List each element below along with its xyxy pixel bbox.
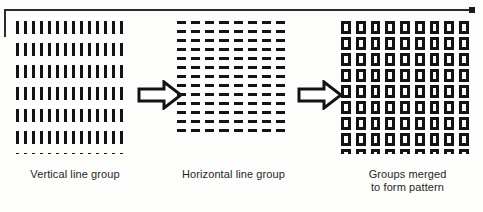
horizontal-mark (219, 93, 228, 96)
horizontal-mark (191, 129, 200, 132)
square-mark (444, 21, 454, 34)
horizontal-mark (234, 129, 243, 132)
horizontal-mark (205, 102, 214, 105)
vertical-mark (96, 131, 99, 144)
horizontal-mark (177, 21, 186, 24)
horizontal-mark (262, 111, 271, 114)
horizontal-mark (191, 120, 200, 123)
horizontal-mark (262, 48, 271, 51)
vertical-mark (72, 131, 75, 144)
horizontal-mark (219, 84, 228, 87)
vertical-mark (112, 21, 115, 34)
square-mark (356, 149, 366, 154)
mark-row (16, 65, 134, 78)
horizontal-line-group-panel (177, 21, 290, 154)
vertical-mark (72, 109, 75, 122)
horizontal-mark (234, 66, 243, 69)
square-mark (444, 69, 454, 82)
vertical-mark (120, 153, 123, 154)
horizontal-mark (276, 102, 285, 105)
mark-row (16, 87, 134, 100)
vertical-mark (48, 131, 51, 144)
vertical-mark (72, 153, 75, 154)
horizontal-mark (262, 84, 271, 87)
square-mark (444, 133, 454, 146)
square-mark (371, 133, 381, 146)
horizontal-mark (205, 66, 214, 69)
vertical-mark (72, 87, 75, 100)
horizontal-mark (262, 93, 271, 96)
horizontal-mark (234, 102, 243, 105)
horizontal-mark (219, 129, 228, 132)
horizontal-mark (234, 93, 243, 96)
vertical-mark (80, 65, 83, 78)
horizontal-mark (248, 75, 257, 78)
square-mark (459, 69, 469, 82)
vertical-mark (48, 65, 51, 78)
square-mark (430, 149, 440, 154)
mark-row (177, 39, 290, 42)
arrow-right-icon (297, 80, 343, 110)
mark-row (341, 53, 474, 66)
square-mark (430, 69, 440, 82)
square-mark (400, 101, 410, 114)
vertical-mark (104, 131, 107, 144)
square-mark (444, 101, 454, 114)
horizontal-mark (191, 48, 200, 51)
mark-row (177, 48, 290, 51)
vertical-mark (80, 21, 83, 34)
horizontal-mark (262, 66, 271, 69)
caption-text: Horizontal line group (166, 168, 301, 181)
square-mark (385, 149, 395, 154)
mark-row (341, 37, 474, 50)
vertical-mark (16, 65, 19, 78)
square-mark (459, 117, 469, 130)
caption-merged-pattern: Groups merged to form pattern (341, 168, 474, 194)
horizontal-mark (234, 111, 243, 114)
vertical-mark (32, 21, 35, 34)
horizontal-mark (248, 66, 257, 69)
square-mark (371, 149, 381, 154)
mark-row (16, 153, 134, 154)
caption-text: Vertical line group (16, 168, 134, 181)
mark-row (341, 101, 474, 114)
horizontal-mark (205, 120, 214, 123)
square-mark (400, 85, 410, 98)
square-mark (385, 133, 395, 146)
horizontal-mark (219, 39, 228, 42)
horizontal-mark (234, 21, 243, 24)
vertical-mark (40, 43, 43, 56)
horizontal-mark (205, 39, 214, 42)
horizontal-mark (276, 129, 285, 132)
vertical-mark (112, 109, 115, 122)
vertical-mark (112, 43, 115, 56)
horizontal-mark (248, 129, 257, 132)
vertical-mark (64, 21, 67, 34)
horizontal-mark (177, 48, 186, 51)
vertical-mark (120, 21, 123, 34)
horizontal-mark (219, 21, 228, 24)
merged-pattern-panel (341, 21, 474, 154)
horizontal-mark (248, 39, 257, 42)
caption-text: Groups merged (341, 168, 474, 181)
vertical-mark (24, 65, 27, 78)
vertical-mark (16, 109, 19, 122)
horizontal-mark (205, 21, 214, 24)
square-mark (430, 53, 440, 66)
vertical-mark (88, 65, 91, 78)
vertical-mark (24, 153, 27, 154)
horizontal-mark (177, 75, 186, 78)
vertical-mark (16, 87, 19, 100)
square-mark (371, 101, 381, 114)
vertical-mark (16, 131, 19, 144)
vertical-mark (112, 87, 115, 100)
square-mark (371, 53, 381, 66)
vertical-mark (40, 131, 43, 144)
horizontal-mark (219, 102, 228, 105)
square-mark (415, 117, 425, 130)
horizontal-mark (191, 39, 200, 42)
square-mark (341, 37, 351, 50)
horizontal-mark (219, 48, 228, 51)
vertical-mark (56, 43, 59, 56)
square-mark (415, 37, 425, 50)
